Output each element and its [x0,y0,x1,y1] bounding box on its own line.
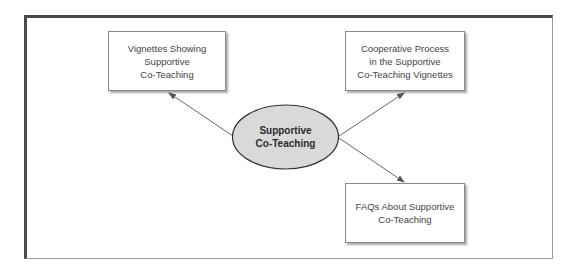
node-label: Cooperative Process in the Supportive Co… [357,42,452,81]
node-vignettes-showing-supportive-co-teaching: Vignettes Showing Supportive Co-Teaching [108,31,226,91]
node-faqs-about-supportive-co-teaching: FAQs About Supportive Co-Teaching [345,183,465,243]
node-cooperative-process: Cooperative Process in the Supportive Co… [345,31,465,91]
node-label: FAQs About Supportive Co-Teaching [356,200,455,226]
center-node-label: Supportive Co-Teaching [232,105,339,169]
node-label: Vignettes Showing Supportive Co-Teaching [128,42,207,81]
